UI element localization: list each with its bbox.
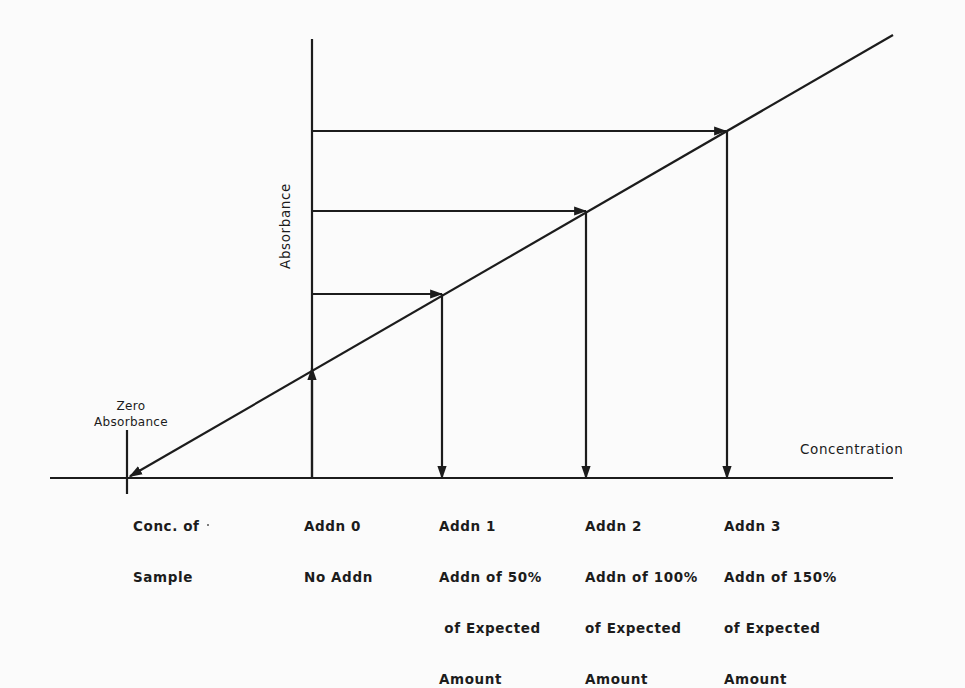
label-addn3: Addn 3 Addn of 150% of Expected Amount [724, 484, 837, 688]
label-line: of Expected [585, 620, 698, 637]
zero-absorbance-line1: Zero [86, 398, 176, 414]
label-line: Amount [585, 671, 698, 688]
y-axis-label: Absorbance [277, 183, 293, 269]
label-line: Addn of 50% [439, 569, 542, 586]
label-line: Amount [724, 671, 837, 688]
label-addn2: Addn 2 Addn of 100% of Expected Amount [585, 484, 698, 688]
label-conc-of-sample: Conc. of Sample [133, 484, 200, 603]
label-line: Addn 3 [724, 518, 837, 535]
label-addn1: Addn 1 Addn of 50% of Expected Amount [439, 484, 542, 688]
label-line: No Addn [304, 569, 373, 586]
zero-absorbance-label: Zero Absorbance [86, 398, 176, 430]
speck [207, 524, 209, 526]
label-line: of Expected [724, 620, 837, 637]
label-line: Addn of 100% [585, 569, 698, 586]
label-line: Addn 0 [304, 518, 373, 535]
label-line: Conc. of [133, 518, 200, 535]
label-line: of Expected [439, 620, 542, 637]
label-line: Amount [439, 671, 542, 688]
x-axis-label: Concentration [800, 441, 903, 457]
label-line: Addn 2 [585, 518, 698, 535]
label-addn0: Addn 0 No Addn [304, 484, 373, 603]
label-line: Sample [133, 569, 200, 586]
label-line: Addn 1 [439, 518, 542, 535]
label-line: Addn of 150% [724, 569, 837, 586]
zero-absorbance-line2: Absorbance [86, 414, 176, 430]
calibration-line [130, 35, 893, 476]
